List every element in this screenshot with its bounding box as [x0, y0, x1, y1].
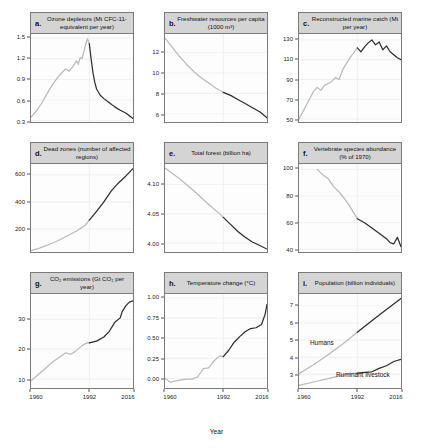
- x-tick-mark: [357, 389, 358, 392]
- y-tick-mark: [295, 305, 298, 306]
- panel-letter: g.: [35, 279, 42, 288]
- y-axis: 130110907050: [268, 33, 298, 123]
- y-tick-label: 6: [290, 320, 293, 326]
- y-tick-label: 90: [286, 77, 293, 83]
- y-tick-mark: [295, 39, 298, 40]
- panel-title-label: Dead zones (number of affected regions): [31, 145, 133, 161]
- panel-letter: i.: [303, 279, 307, 288]
- chart-panel-a: a.Ozone depletors (Mt CFC-11-equivalent …: [0, 12, 134, 123]
- y-tick-label: 0.25: [147, 356, 159, 362]
- y-tick-mark: [295, 340, 298, 341]
- y-tick-mark: [27, 37, 30, 38]
- panel-letter: e.: [169, 149, 175, 158]
- panel-title-strip: g.CO₂ emissions (Gt CO₂ per year): [30, 272, 134, 293]
- y-tick-label: 6: [156, 112, 159, 118]
- y-tick-mark: [161, 114, 164, 115]
- y-tick-mark: [161, 379, 164, 380]
- y-tick-label: 4: [290, 355, 293, 361]
- chart-panel-g: g.CO₂ emissions (Gt CO₂ per year)3020101…: [0, 272, 134, 389]
- panel-title-label: Ozone depletors (Mt CFC-11-equivalent pe…: [31, 15, 133, 31]
- x-tick-label: 2016: [255, 394, 268, 400]
- y-tick-mark: [161, 338, 164, 339]
- x-tick-mark: [223, 389, 224, 392]
- y-tick-label: 100: [283, 165, 293, 171]
- y-tick-mark: [295, 250, 298, 251]
- y-tick-mark: [161, 214, 164, 215]
- y-tick-mark: [27, 349, 30, 350]
- x-tick-mark: [89, 389, 90, 392]
- y-tick-mark: [27, 121, 30, 122]
- x-axis: 196019922016: [30, 389, 134, 405]
- y-axis: 100806040: [268, 163, 298, 253]
- panel-letter: a.: [35, 19, 41, 28]
- panel-title-strip: b.Freshwater resources per capita (1000 …: [164, 12, 268, 33]
- y-tick-mark: [27, 174, 30, 175]
- x-axis: 196019922016: [298, 389, 402, 405]
- y-tick-label: 130: [283, 36, 293, 42]
- y-tick-label: 60: [286, 220, 293, 226]
- panel-title-label: Reconstructed marine catch (Mt per year): [299, 15, 401, 31]
- x-tick-mark: [164, 389, 165, 392]
- y-tick-mark: [27, 201, 30, 202]
- x-axis-label: Year: [0, 428, 433, 435]
- y-tick-mark: [295, 322, 298, 323]
- series-label-humans: Humans: [310, 339, 334, 346]
- series-label-ruminant-livestock: Ruminant livestock: [336, 371, 390, 378]
- y-tick-label: 400: [15, 199, 25, 205]
- y-tick-mark: [27, 318, 30, 319]
- y-tick-mark: [295, 59, 298, 60]
- x-tick-mark: [30, 389, 31, 392]
- y-axis: 1.51.20.90.60.3: [0, 33, 30, 123]
- y-tick-label: 600: [15, 171, 25, 177]
- panel-letter: c.: [303, 19, 309, 28]
- x-tick-label: 1992: [217, 394, 230, 400]
- x-tick-mark: [402, 389, 403, 392]
- figure-panel-grid: a.Ozone depletors (Mt CFC-11-equivalent …: [0, 0, 433, 448]
- x-tick-mark: [134, 389, 135, 392]
- y-axis: 1.000.750.500.250.00: [134, 293, 164, 389]
- x-tick-label: 2016: [389, 394, 402, 400]
- y-tick-mark: [27, 229, 30, 230]
- plot-area: [30, 293, 134, 389]
- y-tick-mark: [295, 375, 298, 376]
- panel-title-label: CO₂ emissions (Gt CO₂ per year): [31, 275, 133, 291]
- x-tick-label: 1960: [163, 394, 176, 400]
- y-tick-label: 4.05: [147, 211, 159, 217]
- chart-panel-f: f.Vertebrate species abundance (% of 197…: [268, 142, 402, 253]
- panel-title-strip: a.Ozone depletors (Mt CFC-11-equivalent …: [30, 12, 134, 33]
- y-tick-label: 4.00: [147, 241, 159, 247]
- y-tick-label: 7: [290, 302, 293, 308]
- chart-panel-i: i.Population (billion individuals)76543H…: [268, 272, 402, 389]
- y-tick-label: 200: [15, 226, 25, 232]
- x-tick-label: 1960: [297, 394, 310, 400]
- plot-area: [30, 163, 134, 253]
- plot-area: [164, 33, 268, 123]
- chart-panel-e: e.Total forest (billion ha)4.104.054.00: [134, 142, 268, 253]
- y-tick-mark: [161, 93, 164, 94]
- panel-letter: h.: [169, 279, 176, 288]
- x-tick-mark: [298, 389, 299, 392]
- y-axis: 600400200: [0, 163, 30, 253]
- y-axis: 302010: [0, 293, 30, 389]
- chart-panel-h: h.Temperature change (°C)1.000.750.500.2…: [134, 272, 268, 389]
- y-tick-mark: [161, 358, 164, 359]
- panel-letter: d.: [35, 149, 42, 158]
- y-tick-mark: [27, 79, 30, 80]
- panel-title-label: Vertebrate species abundance (% of 1970): [299, 145, 401, 161]
- y-tick-mark: [161, 72, 164, 73]
- chart-panel-d: d.Dead zones (number of affected regions…: [0, 142, 134, 253]
- y-tick-mark: [295, 223, 298, 224]
- panel-title-strip: i.Population (billion individuals): [298, 272, 402, 293]
- y-tick-label: 1.00: [147, 294, 159, 300]
- y-tick-label: 0.9: [17, 76, 25, 82]
- chart-panel-c: c.Reconstructed marine catch (Mt per yea…: [268, 12, 402, 123]
- chart-panel-b: b.Freshwater resources per capita (1000 …: [134, 12, 268, 123]
- y-axis: 121086: [134, 33, 164, 123]
- y-tick-mark: [295, 168, 298, 169]
- y-tick-label: 0.50: [147, 335, 159, 341]
- panel-title-strip: h.Temperature change (°C): [164, 272, 268, 293]
- y-tick-mark: [295, 99, 298, 100]
- y-tick-label: 0.6: [17, 98, 25, 104]
- y-tick-label: 5: [290, 337, 293, 343]
- y-tick-mark: [27, 379, 30, 380]
